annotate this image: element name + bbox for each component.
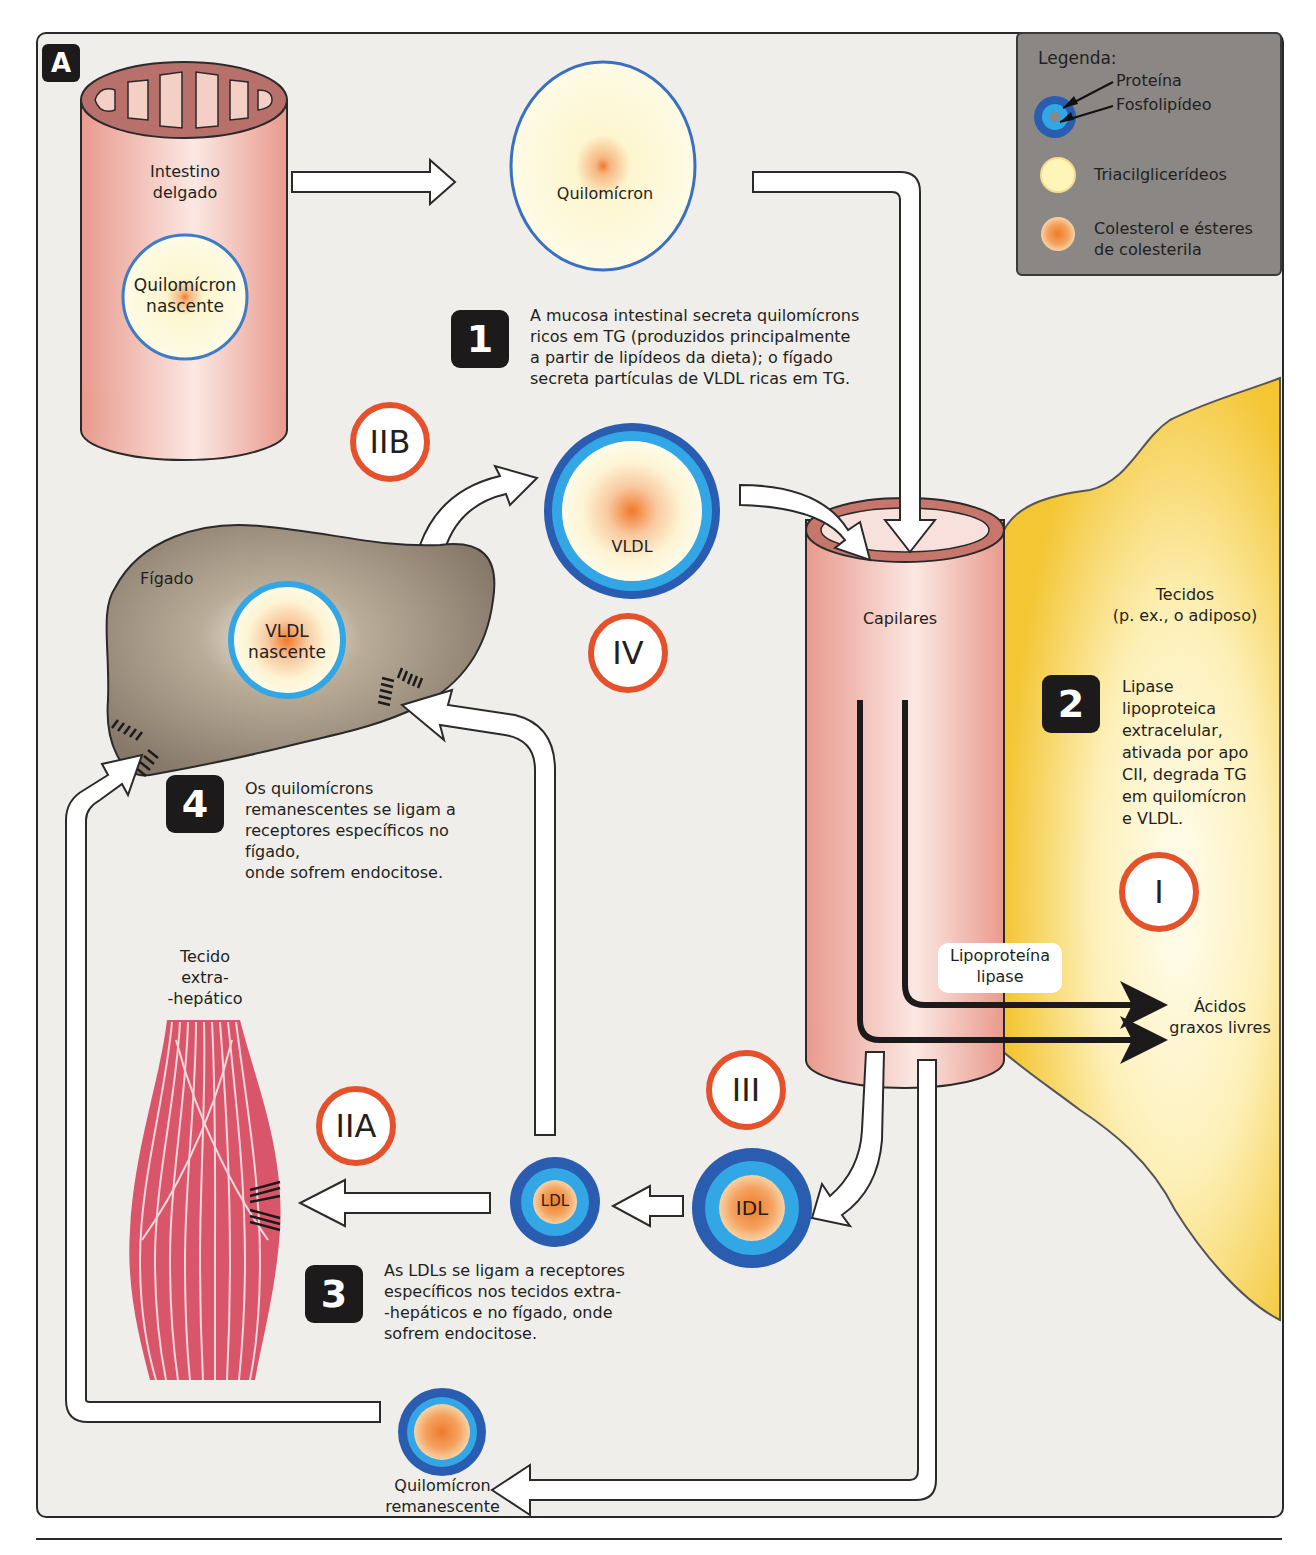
step-2-badge: 2: [1042, 675, 1100, 733]
legend-protein-label: Proteína: [1116, 70, 1182, 91]
arrow-ldl-to-extrahepatic: [300, 1180, 490, 1226]
hyperlipidemia-type-iv-badge: IV: [588, 613, 668, 693]
hyperlipidemia-type-iib-badge: IIB: [350, 402, 430, 482]
step-4-badge: 4: [166, 775, 224, 833]
lipoprotein-metabolism-figure: A Intestino delgado Quilomícron nascente…: [0, 0, 1316, 1555]
intestine-shape: [81, 62, 287, 460]
step-1-badge: 1: [451, 310, 509, 368]
vldl-particle: [544, 423, 720, 599]
legend-triacylglycerol-label: Triacilglicerídeos: [1094, 164, 1227, 185]
bottom-rule: [36, 1538, 1282, 1540]
free-fatty-acids-label: Ácidos graxos livres: [1160, 996, 1280, 1038]
idl-label: IDL: [712, 1196, 792, 1220]
arrow-liver-to-vldl: [420, 466, 537, 552]
step-3-badge: 3: [305, 1265, 363, 1323]
capillaries-label: Capilares: [840, 608, 960, 629]
arrow-idl-to-ldl: [613, 1186, 683, 1226]
arrow-intestine-to-chylomicron: [292, 160, 455, 204]
chylomicron-label: Quilomícron: [530, 183, 680, 204]
step-1-text: A mucosa intestinal secreta quilomícrons…: [530, 305, 890, 389]
vldl-label: VLDL: [582, 536, 682, 557]
liver-label: Fígado: [140, 568, 194, 589]
muscle-shape: [129, 1020, 280, 1380]
tissues-label: Tecidos (p. ex., o adiposo): [1100, 584, 1270, 626]
hyperlipidemia-type-iii-badge: III: [706, 1050, 786, 1130]
nascent-vldl-label: VLDL nascente: [237, 621, 337, 663]
legend-panel: Legenda: Proteína Fosfolipídeo Triacilgl…: [1016, 32, 1282, 276]
step-2-text: Lipase lipoproteica extracelular, ativad…: [1122, 676, 1282, 830]
nascent-chylomicron-label: Quilomícron nascente: [110, 275, 260, 317]
adipose-tissue-shape: [990, 378, 1280, 1320]
step-4-text: Os quilomícrons remanescentes se ligam a…: [245, 778, 485, 883]
triacylglycerol-circle-icon: [1041, 158, 1075, 192]
chylomicron-remnant-particle: [398, 1388, 486, 1476]
phospholipid-ring-icon: [1050, 112, 1060, 122]
legend-phospholipid-label: Fosfolipídeo: [1116, 94, 1211, 115]
chylomicron-remnant-label: Quilomícron remanescente: [380, 1475, 505, 1517]
panel-label-badge: A: [42, 44, 80, 82]
hyperlipidemia-type-iia-badge: IIA: [316, 1086, 396, 1166]
chylomicron-particle: [511, 62, 695, 270]
hyperlipidemia-type-i-badge: I: [1119, 852, 1199, 932]
arrow-ldl-to-liver: [402, 690, 555, 1135]
lipoprotein-lipase-label: Lipoproteína lipase: [938, 943, 1062, 993]
step-3-text: As LDLs se ligam a receptores específico…: [384, 1260, 664, 1344]
ldl-label: LDL: [525, 1191, 585, 1212]
cholesterol-circle-icon: [1041, 217, 1075, 251]
intestine-label: Intestino delgado: [110, 161, 260, 203]
extrahepatic-tissue-label: Tecido extra- -hepático: [150, 946, 260, 1009]
legend-cholesterol-label: Colesterol e ésteres de colesterila: [1094, 218, 1253, 260]
